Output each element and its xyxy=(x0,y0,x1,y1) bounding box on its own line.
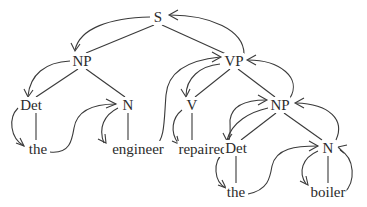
node-v: V xyxy=(186,97,199,113)
word-the-1: the xyxy=(28,141,48,157)
arrow-s-to-np xyxy=(75,17,150,50)
edge-s-np xyxy=(86,25,154,53)
edge-np-n2 xyxy=(284,113,322,140)
arrowhead-icon xyxy=(106,99,116,108)
node-n-object: N xyxy=(322,140,335,156)
word-engineer: engineer xyxy=(111,141,165,157)
edge-s-vp xyxy=(162,25,226,54)
arrow-det2-to-the xyxy=(216,152,226,188)
node-det-subject: Det xyxy=(19,97,43,113)
edge-vp-np xyxy=(238,69,275,97)
arrow-n-to-engineer xyxy=(102,108,118,143)
arrow-vp-to-s xyxy=(170,15,244,54)
arrow-det-to-the xyxy=(12,108,24,146)
word-boiler: boiler xyxy=(310,184,347,200)
edge-np-n xyxy=(86,69,125,97)
traversal-arrows xyxy=(12,10,352,194)
node-s: S xyxy=(153,9,163,25)
arrow-the-to-n xyxy=(50,104,116,152)
edge-np-det xyxy=(36,69,78,97)
arrow-np2-to-vp xyxy=(248,60,293,98)
arrow-the2-to-n2 xyxy=(248,146,318,194)
parse-tree-canvas xyxy=(0,0,367,207)
node-np-object: NP xyxy=(269,97,290,113)
node-n-subject: N xyxy=(122,97,135,113)
edge-vp-v xyxy=(195,69,230,97)
arrowhead-icon xyxy=(338,145,347,153)
word-the-2: the xyxy=(226,184,246,200)
edge-np-det2 xyxy=(241,113,276,140)
arrowhead-icon xyxy=(16,138,24,146)
node-det-object: Det xyxy=(224,140,248,156)
node-np-subject: NP xyxy=(71,53,92,69)
node-vp: VP xyxy=(223,53,244,69)
word-repaired: repaired xyxy=(177,141,228,157)
arrow-n2-to-boiler xyxy=(302,151,318,184)
arrowhead-icon xyxy=(181,89,190,97)
arrow-n2-to-np2 xyxy=(296,103,339,140)
